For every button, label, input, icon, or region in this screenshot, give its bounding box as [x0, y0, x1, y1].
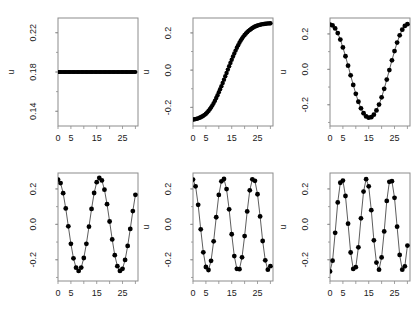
data-point-marker — [110, 237, 115, 242]
data-point-marker — [253, 178, 258, 183]
data-point-marker — [392, 49, 397, 54]
data-point-marker — [405, 243, 410, 248]
data-point-marker — [214, 215, 219, 220]
plot-panel-4: 051525-0.20.00.2 — [0, 157, 145, 307]
x-tick-label: 15 — [227, 133, 237, 143]
y-axis-title: u — [278, 224, 288, 229]
data-point-marker — [328, 269, 333, 274]
data-point-marker — [341, 178, 346, 183]
data-point-marker — [255, 192, 260, 197]
data-point-marker — [379, 95, 384, 100]
y-tick-label: 0.0 — [163, 64, 173, 77]
series-group — [328, 177, 410, 274]
data-point-marker — [392, 195, 397, 200]
data-point-marker — [201, 250, 206, 255]
y-tick-label: 0.2 — [28, 183, 38, 196]
x-tick-label: 5 — [340, 288, 345, 298]
x-tick-label: 5 — [68, 133, 73, 143]
plot-panel-5: 051525-0.20.00.2u — [135, 157, 280, 307]
data-point-marker — [343, 54, 348, 59]
data-point-marker — [333, 230, 338, 235]
data-point-marker — [356, 245, 361, 250]
data-point-marker — [216, 193, 221, 198]
data-point-marker — [247, 188, 252, 193]
data-point-marker — [395, 40, 400, 45]
data-point-marker — [193, 184, 198, 189]
data-point-marker — [69, 241, 74, 246]
data-point-marker — [356, 99, 361, 104]
data-point-marker — [222, 177, 227, 182]
x-tick-label: 25 — [118, 288, 128, 298]
data-point-marker — [191, 177, 196, 182]
data-point-marker — [397, 253, 402, 258]
data-point-marker — [338, 37, 343, 42]
data-point-marker — [387, 68, 392, 73]
x-tick-label: 5 — [203, 288, 208, 298]
x-tick-label: 25 — [253, 288, 263, 298]
data-point-marker — [374, 260, 379, 265]
y-tick-label: 0.2 — [300, 183, 310, 196]
data-point-marker — [209, 258, 214, 263]
data-point-marker — [211, 239, 216, 244]
data-point-marker — [224, 187, 229, 192]
data-point-marker — [92, 191, 97, 196]
data-point-marker — [369, 208, 374, 213]
data-point-marker — [377, 267, 382, 272]
x-tick-label: 0 — [327, 288, 332, 298]
data-point-marker — [359, 216, 364, 221]
data-point-marker — [364, 177, 369, 182]
data-point-marker — [66, 224, 71, 229]
data-point-marker — [353, 265, 358, 270]
data-point-marker — [102, 187, 107, 192]
data-point-marker — [382, 229, 387, 234]
y-tick-label: -0.2 — [300, 252, 310, 268]
data-point-marker — [346, 221, 351, 226]
y-tick-label: -0.2 — [28, 252, 38, 268]
data-point-marker — [348, 250, 353, 255]
x-tick-label: 5 — [203, 133, 208, 143]
data-point-marker — [374, 108, 379, 113]
figure-panel-grid: 0515250.140.180.22u051525-0.20.00.2u0515… — [0, 0, 417, 313]
data-point-marker — [348, 73, 353, 78]
data-point-marker — [81, 256, 86, 261]
data-point-marker — [125, 244, 130, 249]
x-tick-label: 5 — [68, 288, 73, 298]
data-point-marker — [335, 31, 340, 36]
series-group — [191, 177, 273, 273]
data-point-marker — [333, 26, 338, 31]
x-tick-label: 15 — [364, 133, 374, 143]
data-point-marker — [227, 207, 232, 212]
data-point-marker — [377, 102, 382, 107]
data-point-marker — [105, 202, 110, 207]
x-tick-label: 0 — [55, 133, 60, 143]
x-tick-label: 25 — [390, 133, 400, 143]
plot-panel-1: 0515250.140.180.22u — [0, 2, 145, 152]
series-group — [328, 22, 410, 120]
data-point-marker — [402, 264, 407, 269]
x-tick-label: 0 — [327, 133, 332, 143]
y-axis-title: u — [6, 69, 16, 74]
data-point-marker — [390, 179, 395, 184]
x-tick-label: 15 — [227, 288, 237, 298]
data-point-marker — [63, 206, 68, 211]
data-point-marker — [258, 214, 263, 219]
data-point-marker — [341, 45, 346, 50]
plot-panel-3: 051525-0.20.00.2u — [272, 2, 417, 152]
y-tick-label: -0.2 — [163, 252, 173, 268]
data-point-marker — [229, 232, 234, 237]
data-point-marker — [112, 253, 117, 258]
series-group — [56, 176, 138, 274]
x-tick-label: 5 — [340, 133, 345, 143]
data-point-marker — [361, 189, 366, 194]
data-point-marker — [379, 255, 384, 260]
data-point-marker — [115, 264, 120, 269]
x-tick-label: 25 — [390, 288, 400, 298]
data-point-marker — [390, 58, 395, 63]
data-point-marker — [94, 180, 99, 185]
plot-frame — [193, 18, 273, 126]
data-point-marker — [382, 86, 387, 91]
x-tick-label: 25 — [118, 133, 128, 143]
data-point-marker — [330, 258, 335, 263]
data-point-marker — [353, 91, 358, 96]
x-tick-label: 0 — [190, 133, 195, 143]
